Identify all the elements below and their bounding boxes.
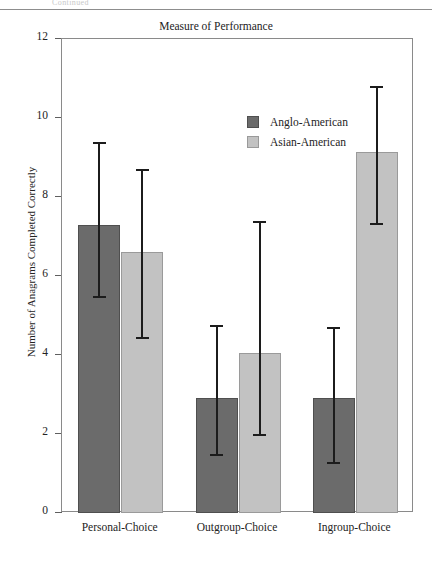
error-bar-cap-lower	[210, 454, 223, 456]
error-bar-cap-upper	[253, 221, 266, 223]
x-axis-tick-label: Ingroup-Choice	[284, 521, 424, 533]
legend-swatch-icon	[247, 116, 259, 128]
y-axis-tick-label: 10	[8, 110, 48, 122]
error-bar-cap-lower	[370, 223, 383, 225]
error-bar-cap-upper	[327, 327, 340, 329]
error-bar-cap-lower	[327, 462, 340, 464]
legend-item-label: Asian-American	[270, 136, 346, 148]
error-bar-stem	[216, 325, 218, 453]
y-axis-tick-label: 12	[8, 31, 48, 43]
error-bar-cap-lower	[136, 337, 149, 339]
error-bar-stem	[376, 86, 378, 222]
legend-item: Asian-American	[247, 132, 348, 152]
error-bar-stem	[141, 169, 143, 337]
y-axis-tick-label: 6	[8, 268, 48, 280]
plot-area: Anglo-AmericanAsian-American	[61, 38, 413, 512]
error-bar-cap-upper	[210, 325, 223, 327]
y-axis-tick-label: 8	[8, 189, 48, 201]
error-bar-stem	[333, 327, 335, 461]
error-bar-cap-lower	[253, 434, 266, 436]
legend-swatch-icon	[247, 136, 259, 148]
error-bar-cap-upper	[370, 86, 383, 88]
chart-legend: Anglo-AmericanAsian-American	[247, 112, 348, 152]
chart-title: Measure of Performance	[0, 20, 432, 32]
error-bar-stem	[259, 221, 261, 434]
figure-container: Measure of Performance Number of Anagram…	[0, 0, 432, 565]
error-bar-cap-upper	[136, 169, 149, 171]
legend-item-label: Anglo-American	[270, 116, 348, 128]
y-axis-tick	[55, 512, 62, 513]
legend-item: Anglo-American	[247, 112, 348, 132]
y-axis-tick-label: 0	[8, 505, 48, 517]
error-bar-stem	[98, 142, 100, 296]
error-bar-cap-lower	[93, 296, 106, 298]
y-axis-tick-label: 2	[8, 426, 48, 438]
error-bar-cap-upper	[93, 142, 106, 144]
y-axis-tick-label: 4	[8, 347, 48, 359]
